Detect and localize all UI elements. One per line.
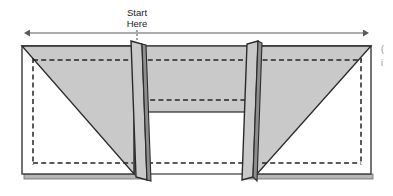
fold-diagram-svg: Start Here ( i	[0, 0, 393, 196]
start-here-label-line1: Start	[127, 7, 147, 18]
start-here-label-line2: Here	[127, 18, 148, 29]
center-gray-band	[140, 46, 252, 112]
fold-diagram-container: Start Here ( i	[0, 0, 393, 196]
left-panel-group	[22, 46, 134, 174]
shadow-band-left	[24, 174, 148, 179]
edge-fragment-top: (	[381, 44, 384, 54]
center-panel-group	[140, 46, 252, 174]
edge-fragment-bottom: i	[381, 58, 383, 68]
right-panel-group	[257, 46, 371, 174]
shadow-band-right	[246, 174, 373, 179]
